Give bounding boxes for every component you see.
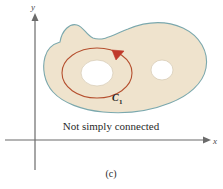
curve-c1-label-subscript: 1 [119,98,123,106]
not-simply-connected-figure: C 1 x y Not simply connected (c) [0,0,223,189]
region-hole-left [81,60,113,86]
region-caption: Not simply connected [63,120,160,132]
x-axis-label: x [212,136,217,146]
panel-label: (c) [105,168,116,180]
curve-c1-label: C [112,92,119,103]
y-axis-label: y [30,2,35,12]
region-hole-right [151,60,173,80]
